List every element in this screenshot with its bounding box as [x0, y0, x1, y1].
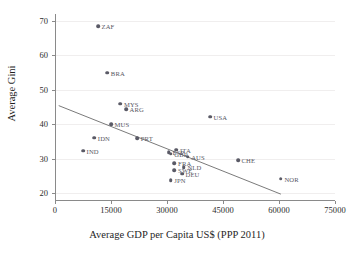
- y-tick-label: 60: [26, 50, 48, 60]
- y-tick: [52, 90, 55, 91]
- data-point: [169, 152, 173, 156]
- data-point: [169, 178, 173, 182]
- data-point-label: NOR: [284, 175, 298, 182]
- data-point-label: USA: [214, 113, 228, 120]
- data-point: [173, 161, 177, 165]
- data-point: [92, 136, 96, 140]
- data-point: [124, 107, 128, 111]
- x-tick-label: 15000: [81, 205, 141, 215]
- y-tick: [52, 21, 55, 22]
- data-point-label: DEU: [186, 170, 200, 177]
- data-point-label: PRT: [141, 135, 153, 142]
- y-tick: [52, 193, 55, 194]
- y-axis-line: [55, 14, 56, 200]
- data-point: [105, 71, 109, 75]
- data-point: [135, 137, 139, 141]
- y-tick: [52, 124, 55, 125]
- data-point: [119, 102, 123, 106]
- y-tick: [52, 159, 55, 160]
- y-tick: [52, 55, 55, 56]
- x-tick-label: 30000: [137, 205, 197, 215]
- data-point-label: CHE: [242, 157, 256, 164]
- data-point: [109, 122, 113, 126]
- scatter-chart: ZAFBRAMYSARGUSAMUSIDNPRTINDITAESPGBRAUSC…: [0, 0, 354, 256]
- x-tick-label: 60000: [249, 205, 309, 215]
- data-point-label: IND: [87, 147, 99, 154]
- data-point-label: JPN: [174, 177, 185, 184]
- data-point: [180, 172, 184, 176]
- x-tick: [223, 201, 224, 204]
- x-tick-label: 45000: [193, 205, 253, 215]
- plot-area: ZAFBRAMYSARGUSAMUSIDNPRTINDITAESPGBRAUSC…: [55, 14, 335, 200]
- x-tick: [335, 201, 336, 204]
- data-point-label: MUS: [115, 121, 130, 128]
- data-point-label: BRA: [111, 69, 125, 76]
- data-point-label: IDN: [98, 134, 110, 141]
- data-point: [81, 149, 85, 153]
- data-point: [279, 177, 283, 181]
- x-tick: [279, 201, 280, 204]
- y-tick-label: 40: [26, 119, 48, 129]
- data-point-label: AUS: [191, 153, 205, 160]
- x-tick-label: 75000: [305, 205, 354, 215]
- y-tick-label: 50: [26, 85, 48, 95]
- data-point: [236, 159, 240, 163]
- x-tick: [111, 201, 112, 204]
- y-axis-label: Average Gini: [6, 9, 17, 179]
- x-axis-label: Average GDP per Capita US$ (PPP 2011): [0, 229, 354, 240]
- data-point: [186, 155, 190, 159]
- y-tick-label: 20: [26, 188, 48, 198]
- x-axis-line: [55, 200, 335, 201]
- x-tick: [55, 201, 56, 204]
- data-point-label: ARG: [130, 106, 144, 113]
- y-tick-label: 30: [26, 154, 48, 164]
- data-point: [96, 24, 100, 28]
- y-tick-label: 70: [26, 16, 48, 26]
- x-tick: [167, 201, 168, 204]
- data-point: [173, 169, 177, 173]
- data-point-label: ZAF: [102, 23, 115, 30]
- x-tick-label: 0: [25, 205, 85, 215]
- data-point: [208, 115, 212, 119]
